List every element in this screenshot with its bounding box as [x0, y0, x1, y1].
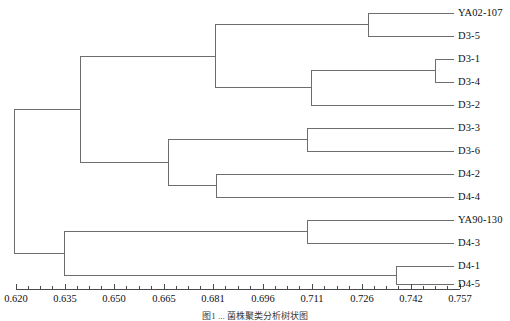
axis-group — [16, 284, 460, 289]
leaf-label-d3-5: D3-5 — [458, 31, 480, 42]
axis-tick-label-6: 0.711 — [300, 293, 323, 304]
leaf-label-d3-6: D3-6 — [458, 146, 480, 157]
figure-caption: 图1 ... 菌株聚类分析树状图 — [0, 311, 510, 321]
axis-tick-label-8: 0.742 — [399, 293, 423, 304]
axis-tick-label-0: 0.620 — [4, 293, 28, 304]
leaf-label-d3-3: D3-3 — [458, 123, 480, 134]
dendrogram-canvas — [0, 0, 510, 321]
leaf-label-d4-4: D4-4 — [458, 192, 480, 203]
axis-tick-label-9: 0.757 — [448, 293, 472, 304]
leaf-label-d3-1: D3-1 — [458, 54, 480, 65]
axis-tick-label-5: 0.696 — [251, 293, 275, 304]
tree-branches — [14, 13, 454, 284]
axis-tick-label-4: 0.681 — [201, 293, 225, 304]
axis-tick-label-2: 0.650 — [102, 293, 126, 304]
leaf-label-d4-2: D4-2 — [458, 169, 480, 180]
leaf-label-d4-5: D4-5 — [458, 279, 480, 290]
leaf-label-d3-4: D3-4 — [458, 77, 480, 88]
leaf-label-d4-3: D4-3 — [458, 238, 480, 249]
leaf-label-d3-2: D3-2 — [458, 100, 480, 111]
leaf-label-ya90-130: YA90-130 — [458, 215, 503, 226]
leaf-label-ya02-107: YA02-107 — [458, 8, 503, 19]
axis-tick-label-1: 0.635 — [53, 293, 77, 304]
axis-tick-label-7: 0.726 — [350, 293, 374, 304]
axis-tick-label-3: 0.665 — [152, 293, 176, 304]
dendrogram-figure: YA02-107D3-5D3-1D3-4D3-2D3-3D3-6D4-2D4-4… — [0, 0, 510, 321]
leaf-label-d4-1: D4-1 — [458, 261, 480, 272]
